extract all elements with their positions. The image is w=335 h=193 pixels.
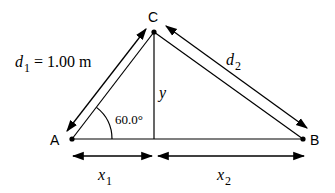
d2-arrow [166, 26, 307, 128]
angle-arc [97, 107, 113, 139]
point-c-label: C [148, 10, 158, 24]
x2-subscript: 2 [225, 174, 231, 188]
point-c-dot [151, 29, 156, 34]
d1-value: = 1.00 m [30, 53, 91, 70]
d2-subscript: 2 [235, 59, 241, 73]
point-a-label: A [50, 133, 59, 147]
x1-var: x [98, 166, 105, 183]
d2-var: d [226, 51, 234, 68]
x2-var: x [217, 166, 224, 183]
angle-label: 60.0° [115, 113, 143, 126]
point-b-label: B [310, 133, 319, 147]
x1-label: x1 [98, 167, 112, 183]
triangle-diagram: C A B d1 = 1.00 m d2 y 60.0° x1 x2 [0, 0, 335, 193]
x2-label: x2 [217, 167, 231, 183]
y-label: y [159, 85, 166, 101]
d1-subscript: 1 [24, 61, 30, 75]
diagram-graphics [0, 0, 335, 193]
d1-label: d1 = 1.00 m [15, 54, 91, 70]
d1-var: d [15, 53, 23, 70]
d2-label: d2 [226, 52, 241, 68]
point-a-dot [69, 136, 74, 141]
y-var: y [159, 84, 166, 101]
x1-subscript: 1 [106, 174, 112, 188]
point-b-dot [300, 136, 305, 141]
side-cb [154, 32, 303, 139]
